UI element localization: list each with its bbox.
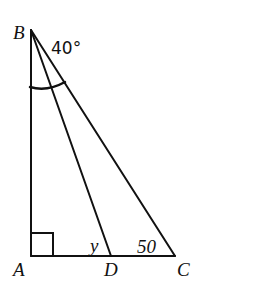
angle-arc-B: [30, 82, 65, 89]
label-D: D: [103, 259, 118, 280]
label-A: A: [11, 259, 25, 280]
label-C: C: [177, 259, 190, 280]
label-B: B: [13, 22, 25, 43]
angle-B-label: 40°: [51, 38, 81, 58]
segment-BD: [31, 30, 111, 256]
triangle-diagram: B 40° A D C y 50: [0, 0, 264, 305]
segment-BC: [31, 30, 175, 256]
angle-D-label: y: [88, 235, 99, 256]
right-angle-marker: [31, 233, 53, 256]
angle-C-label: 50: [137, 236, 157, 257]
